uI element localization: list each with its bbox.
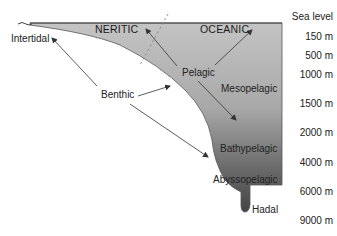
depth-150m: 150 m	[305, 32, 333, 42]
depth-4000m: 4000 m	[300, 158, 333, 168]
depth-1500m: 1500 m	[300, 99, 333, 109]
label-hadal: Hadal	[252, 205, 278, 215]
benthic-arrow-slope	[138, 86, 170, 96]
zone-label-oceanic: OCEANIC	[200, 24, 249, 35]
label-abyssopelagic: Abyssopelagic	[213, 175, 277, 185]
ocean-zones-diagram: NERITIC OCEANIC Intertidal Benthic Pelag…	[0, 0, 337, 236]
ocean-profile-graphic	[0, 0, 337, 236]
depth-6000m: 6000 m	[300, 187, 333, 197]
depth-2000m: 2000 m	[300, 128, 333, 138]
depth-sea-level: Sea level	[292, 12, 333, 22]
label-pelagic: Pelagic	[182, 68, 215, 78]
label-benthic: Benthic	[101, 90, 134, 100]
benthic-arrow-shelf	[52, 38, 97, 86]
benthic-arrow-deep	[130, 104, 208, 157]
zone-label-neritic: NERITIC	[95, 24, 138, 35]
label-mesopelagic: Mesopelagic	[221, 84, 277, 94]
label-bathypelagic: Bathypelagic	[220, 144, 277, 154]
depth-500m: 500 m	[305, 51, 333, 61]
depth-9000m: 9000 m	[300, 216, 333, 226]
label-intertidal: Intertidal	[11, 34, 49, 44]
depth-1000m: 1000 m	[300, 70, 333, 80]
